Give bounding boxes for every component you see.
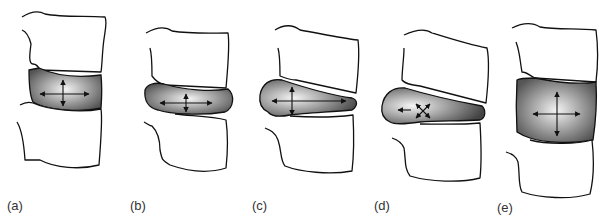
intervertebral-disc-figure: (a) (b) (c) (d) (e) — [0, 0, 607, 224]
panel-label-d: (d) — [374, 198, 390, 213]
figure-canvas — [0, 0, 607, 224]
lower-vertebra — [17, 102, 101, 167]
panel-label-b: (b) — [130, 198, 146, 213]
panel-c — [260, 26, 359, 173]
panel-b — [144, 28, 233, 171]
panel-label-a: (a) — [7, 198, 23, 213]
panel-label-e: (e) — [497, 200, 513, 215]
intervertebral-disc — [29, 68, 102, 110]
panel-a — [17, 12, 106, 168]
panel-e — [506, 24, 598, 198]
panel-label-c: (c) — [252, 198, 267, 213]
upper-vertebra — [22, 12, 106, 72]
panel-d — [382, 30, 489, 181]
